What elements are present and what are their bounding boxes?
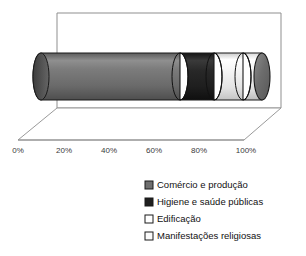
x-tick-label-1: 20%: [56, 146, 72, 155]
x-axis: 0% 20% 40% 60% 80% 100%: [12, 146, 256, 155]
segment-body-commerce: [33, 53, 180, 100]
legend-item-manifestacoes-religiosas[interactable]: Manifestações religiosas: [145, 230, 261, 241]
legend-item-comercio-e-producao[interactable]: Comércio e produção: [145, 179, 248, 190]
chart-container: 0% 20% 40% 60% 80% 100% Comércio e produ…: [0, 0, 306, 256]
legend-label-edificacao: Edificação: [157, 213, 201, 224]
legend-item-higiene-e-saude-publicas[interactable]: Higiene e saúde públicas: [145, 196, 263, 207]
floor-plane: [18, 108, 281, 140]
legend-swatch-comercio-e-producao: [145, 181, 153, 189]
bar-segment-comercio-e-producao[interactable]: [33, 53, 180, 100]
stacked-cylinder-chart: 0% 20% 40% 60% 80% 100% Comércio e produ…: [0, 0, 306, 256]
cylinder-end-cap: [254, 53, 270, 100]
x-tick-label-5: 100%: [236, 146, 256, 155]
cylinder-start-cap: [33, 53, 49, 100]
x-tick-label-0: 0%: [12, 146, 24, 155]
legend-label-comercio-e-producao: Comércio e produção: [157, 179, 248, 190]
x-tick-label-3: 60%: [146, 146, 162, 155]
legend-label-higiene-e-saude-publicas: Higiene e saúde públicas: [157, 196, 263, 207]
legend: Comércio e produção Higiene e saúde públ…: [145, 179, 263, 241]
stacked-cylinder-bar: [33, 53, 270, 100]
legend-item-edificacao[interactable]: Edificação: [145, 213, 201, 224]
legend-label-manifestacoes-religiosas: Manifestações religiosas: [157, 230, 261, 241]
legend-swatch-edificacao: [145, 215, 153, 223]
x-tick-label-2: 40%: [101, 146, 117, 155]
legend-swatch-manifestacoes-religiosas: [145, 232, 153, 240]
legend-swatch-higiene-e-saude-publicas: [145, 198, 153, 206]
x-tick-label-4: 80%: [191, 146, 207, 155]
